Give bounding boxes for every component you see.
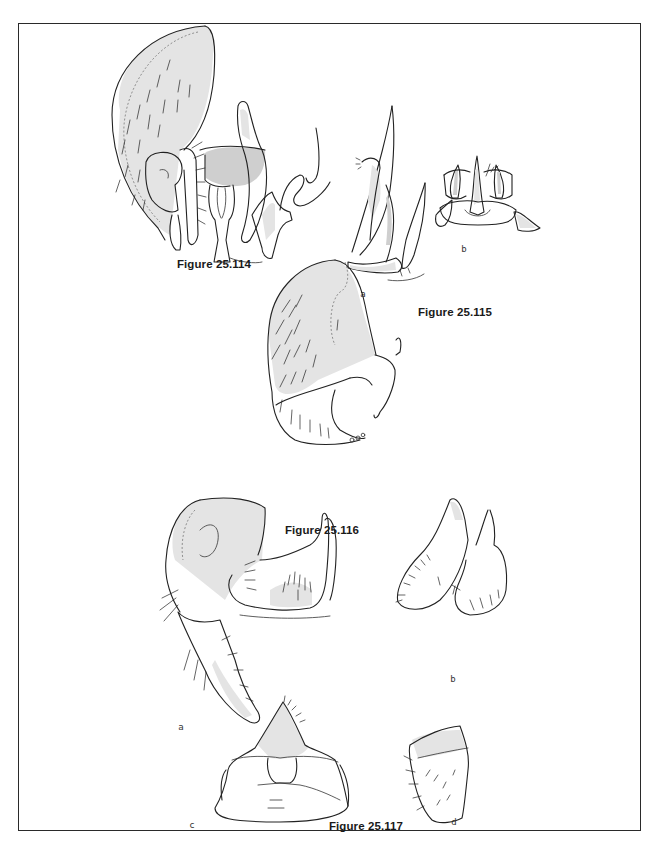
sublabel-a: a [178,722,183,732]
sublabel-c: c [189,820,194,830]
figure-25-117d-illustration [0,0,647,843]
sublabel-b: b [450,674,455,684]
sublabel-d: d [451,817,456,827]
figure-caption: Figure 25.117 [329,820,403,832]
